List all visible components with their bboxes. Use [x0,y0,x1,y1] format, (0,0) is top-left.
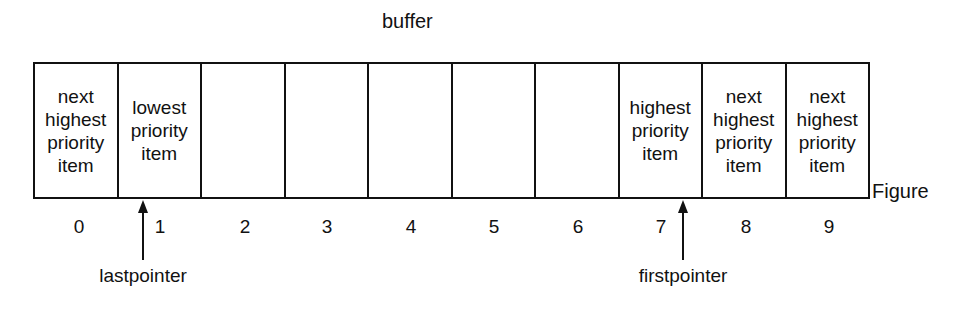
buffer-cell-2 [202,64,286,197]
index-label-8: 8 [731,216,761,238]
index-label-7: 7 [646,216,676,238]
index-label-2: 2 [230,216,260,238]
buffer-cell-8: next highest priority item [703,64,787,197]
buffer-cell-4 [369,64,453,197]
index-label-5: 5 [479,216,509,238]
buffer-cell-9: next highest priority item [787,64,869,197]
buffer-array: next highest priority item lowest priori… [33,62,870,199]
index-label-6: 6 [563,216,593,238]
firstpointer-arrow-icon [677,200,689,260]
firstpointer-label: firstpointer [639,265,728,287]
buffer-cell-1: lowest priority item [119,64,203,197]
index-label-1: 1 [145,216,175,238]
buffer-title: buffer [382,10,433,33]
figure-label: Figure [872,180,929,203]
buffer-cell-5 [453,64,537,197]
index-label-4: 4 [396,216,426,238]
index-label-0: 0 [64,216,94,238]
buffer-cell-7: highest priority item [620,64,704,197]
buffer-cell-6 [536,64,620,197]
buffer-cell-3 [286,64,370,197]
index-label-9: 9 [814,216,844,238]
lastpointer-arrow-icon [137,200,149,260]
lastpointer-label: lastpointer [99,265,187,287]
buffer-cell-0: next highest priority item [35,64,119,197]
index-label-3: 3 [312,216,342,238]
